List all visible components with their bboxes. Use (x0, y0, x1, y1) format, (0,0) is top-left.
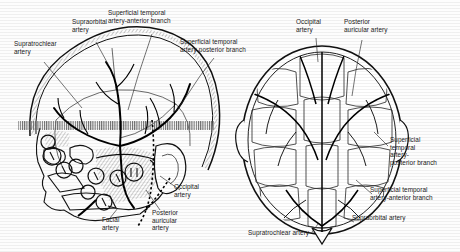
label-supraorbital-artery-superior: Supraorbital artery (352, 214, 406, 222)
label-superficial-temporal-anterior-branch: Superficial temporal artery-anterior bra… (108, 9, 171, 24)
label-occipital-artery: Occipital artery (174, 183, 199, 198)
label-posterior-auricular-artery: Posterior auricular artery (152, 209, 178, 232)
hatch-band (18, 121, 214, 130)
label-occipital-artery-superior: Occipital artery (296, 18, 321, 33)
label-posterior-auricular-artery-superior: Posterior auricular artery (344, 18, 387, 33)
anatomical-figure: Supratrochlear artery Supraorbital arter… (0, 0, 460, 252)
label-supraorbital-artery: Supraorbital artery (72, 18, 107, 33)
label-superficial-temporal-anterior-branch-superior: Superficial temporal artery-anterior bra… (370, 186, 433, 201)
label-supratrochlear-artery: Supratrochlear artery (14, 40, 57, 55)
label-facial-artery: Facial artery (102, 216, 119, 231)
label-superficial-temporal-posterior-branch: Superficial temporal artery-posterior br… (180, 38, 246, 53)
label-superficial-temporal-posterior-branch-superior: Superficial temporal artery- posterior b… (390, 136, 437, 166)
label-supratrochlear-artery-superior: Supratrochlear artery (248, 229, 309, 237)
